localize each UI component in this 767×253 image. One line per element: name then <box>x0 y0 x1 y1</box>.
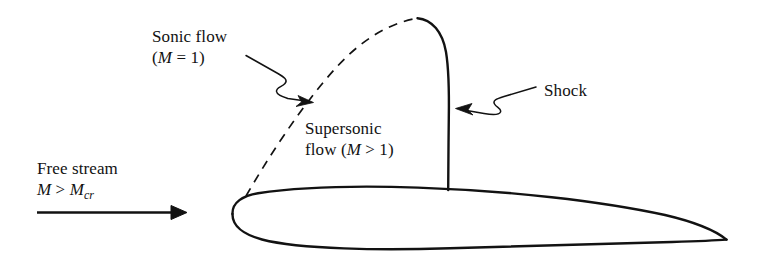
free-stream-arrow <box>37 206 187 220</box>
free-stream-relation: > <box>51 180 69 199</box>
sonic-close-paren: ) <box>199 48 205 67</box>
label-sonic-flow-line2: (M = 1) <box>152 47 227 68</box>
supersonic-prefix: flow ( <box>305 140 347 159</box>
label-supersonic-line2: flow (M > 1) <box>305 139 394 160</box>
free-stream-mach-symbol-2: M <box>70 180 84 199</box>
free-stream-arrow-head <box>171 206 187 220</box>
sonic-line <box>246 18 418 196</box>
airfoil-shape <box>232 187 726 249</box>
label-sonic-flow: Sonic flow (M = 1) <box>152 26 227 68</box>
sonic-mach-symbol: M <box>158 48 172 67</box>
free-stream-mach-symbol: M <box>37 180 51 199</box>
shock-leader-line <box>456 87 537 115</box>
shock-line <box>418 18 449 190</box>
label-free-stream: Free stream M > Mcr <box>37 158 118 206</box>
label-free-stream-line1: Free stream <box>37 158 118 179</box>
label-supersonic-flow: Supersonic flow (M > 1) <box>305 118 394 160</box>
label-free-stream-line2: M > Mcr <box>37 179 118 206</box>
supersonic-mach-symbol: M <box>347 140 361 159</box>
airfoil-lower-surface <box>232 214 726 249</box>
sonic-flow-leader-line <box>246 56 314 107</box>
free-stream-subscript: cr <box>84 188 94 202</box>
transonic-airfoil-diagram: Sonic flow (M = 1) Supersonic flow (M > … <box>0 0 767 253</box>
shock-leader-path <box>461 87 536 115</box>
label-shock: Shock <box>544 80 587 101</box>
label-shock-text: Shock <box>544 80 587 101</box>
shock-leader-arrowhead <box>456 104 474 116</box>
airfoil-upper-surface <box>232 187 726 240</box>
sonic-flow-leader-path <box>246 56 309 102</box>
sonic-mach-relation: = 1 <box>172 48 199 67</box>
label-supersonic-line1: Supersonic <box>305 118 394 139</box>
label-sonic-flow-line1: Sonic flow <box>152 26 227 47</box>
supersonic-suffix: > 1) <box>361 140 394 159</box>
